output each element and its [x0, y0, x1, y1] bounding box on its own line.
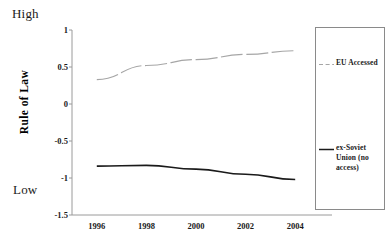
x-axis-tick-label: 1998 — [123, 222, 169, 231]
y-axis-title: Rule of Law — [18, 57, 30, 147]
plot-area — [72, 30, 320, 215]
legend-swatch-dashed-gray — [319, 60, 334, 69]
y-axis-tick-labels: 10.50-0.5-1-1.5 — [38, 30, 68, 215]
y-axis-tick-label: -1 — [38, 174, 68, 183]
legend-item-eu-accessed: EU Accessed — [319, 58, 385, 69]
x-axis-tick-label: 2004 — [272, 222, 318, 231]
legend-label-eu-accessed: EU Accessed — [336, 58, 385, 68]
series-line — [97, 51, 295, 80]
y-axis-tick-label: -1.5 — [38, 211, 68, 220]
x-axis-tick-label: 2000 — [173, 222, 219, 231]
x-axis-tick-labels: 19961998200020022004 — [72, 222, 320, 236]
x-axis-tick-label: 2002 — [223, 222, 269, 231]
legend-swatch-solid-black — [319, 145, 334, 154]
rule-of-law-line-chart: High Low Rule of Law 10.50-0.5-1-1.5 199… — [0, 0, 391, 250]
y-axis-tick-label: 0.5 — [38, 63, 68, 72]
legend-item-ex-soviet-union: ex-Soviet Union (no access) — [319, 143, 385, 173]
legend-label-ex-soviet-union: ex-Soviet Union (no access) — [336, 143, 385, 173]
y-axis-tick-label: 1 — [38, 26, 68, 35]
series-line — [97, 165, 295, 179]
chart-legend: EU Accessed ex-Soviet Union (no access) — [315, 27, 385, 210]
axis-annotation-low: Low — [13, 182, 37, 198]
y-axis-tick-label: 0 — [38, 100, 68, 109]
y-axis-tick-label: -0.5 — [38, 137, 68, 146]
data-series-group — [72, 30, 320, 215]
x-axis-tick-label: 1996 — [74, 222, 120, 231]
axis-annotation-high: High — [12, 6, 39, 22]
